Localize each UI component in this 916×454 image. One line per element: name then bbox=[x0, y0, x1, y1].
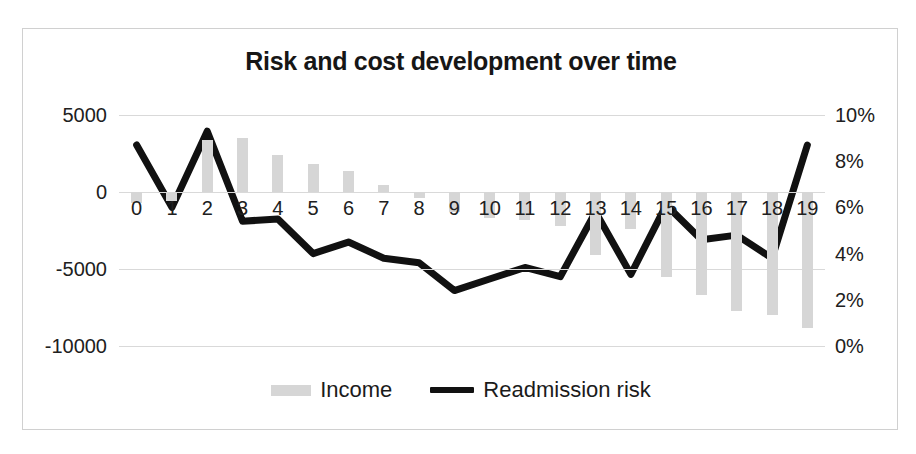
x-axis-tick-label: 16 bbox=[690, 197, 712, 220]
readmission-risk-swatch-icon bbox=[430, 387, 474, 393]
y-axis-left: 50000-5000-10000 bbox=[45, 115, 107, 346]
x-axis-tick-label: 9 bbox=[449, 197, 460, 220]
y-axis-right-tick-label: 8% bbox=[835, 150, 864, 173]
y-axis-right-tick-label: 4% bbox=[835, 242, 864, 265]
x-axis-tick-label: 15 bbox=[655, 197, 677, 220]
gridline bbox=[119, 346, 825, 347]
y-axis-left-tick-label: -5000 bbox=[56, 258, 107, 281]
x-axis-tick-label: 6 bbox=[343, 197, 354, 220]
legend-item-income[interactable]: Income bbox=[271, 377, 392, 403]
y-axis-right-tick-label: 0% bbox=[835, 335, 864, 358]
y-axis-left-tick-label: -10000 bbox=[45, 335, 107, 358]
x-axis-tick-label: 0 bbox=[131, 197, 142, 220]
x-axis-tick-label: 2 bbox=[202, 197, 213, 220]
x-axis-tick-label: 19 bbox=[796, 197, 818, 220]
x-axis: 012345678910111213141516171819 bbox=[119, 115, 825, 346]
y-axis-left-tick-label: 5000 bbox=[63, 104, 108, 127]
x-axis-tick-label: 12 bbox=[549, 197, 571, 220]
legend-label-income: Income bbox=[320, 377, 392, 403]
x-axis-tick-label: 18 bbox=[761, 197, 783, 220]
x-axis-tick-label: 4 bbox=[272, 197, 283, 220]
y-axis-right-tick-label: 6% bbox=[835, 196, 864, 219]
x-axis-tick-label: 7 bbox=[378, 197, 389, 220]
chart-container: Risk and cost development over time 5000… bbox=[22, 28, 898, 430]
x-axis-tick-label: 14 bbox=[620, 197, 642, 220]
x-axis-tick-label: 5 bbox=[308, 197, 319, 220]
x-axis-tick-label: 3 bbox=[237, 197, 248, 220]
x-axis-tick-label: 13 bbox=[584, 197, 606, 220]
y-axis-left-tick-label: 0 bbox=[96, 181, 107, 204]
income-swatch-icon bbox=[271, 385, 311, 396]
chart-legend: Income Readmission risk bbox=[23, 377, 899, 403]
x-axis-tick-label: 11 bbox=[515, 197, 536, 220]
y-axis-right: 10%8%6%4%2%0% bbox=[835, 115, 897, 346]
x-axis-tick-label: 10 bbox=[479, 197, 501, 220]
legend-label-readmission-risk: Readmission risk bbox=[483, 377, 651, 403]
legend-item-readmission-risk[interactable]: Readmission risk bbox=[430, 377, 651, 403]
y-axis-right-tick-label: 2% bbox=[835, 288, 864, 311]
x-axis-tick-label: 17 bbox=[726, 197, 748, 220]
y-axis-right-tick-label: 10% bbox=[835, 104, 875, 127]
x-axis-tick-label: 8 bbox=[413, 197, 424, 220]
chart-title: Risk and cost development over time bbox=[23, 47, 899, 76]
x-axis-tick-label: 1 bbox=[166, 197, 177, 220]
